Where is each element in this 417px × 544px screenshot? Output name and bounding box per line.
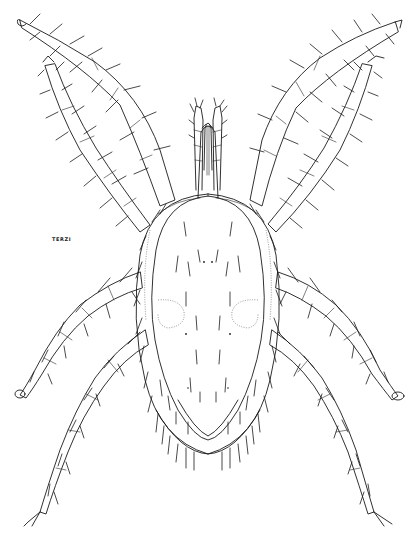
- leg-4-left: [24, 330, 148, 526]
- mite-illustration: [0, 0, 417, 544]
- idiosoma: [134, 194, 282, 470]
- figure-caption-truncated: [95, 538, 335, 544]
- mite-drawing: [0, 0, 417, 544]
- leg-2-left: [38, 56, 150, 232]
- leg-3-left: [15, 268, 142, 398]
- leg-4-right: [270, 330, 392, 526]
- gnathosoma: [189, 98, 227, 198]
- leg-1-left: [17, 14, 175, 206]
- artist-signature: TERZI: [52, 236, 71, 242]
- leg-2-right: [268, 56, 384, 232]
- leg-3-right: [276, 268, 404, 400]
- leg-1-right: [250, 14, 402, 206]
